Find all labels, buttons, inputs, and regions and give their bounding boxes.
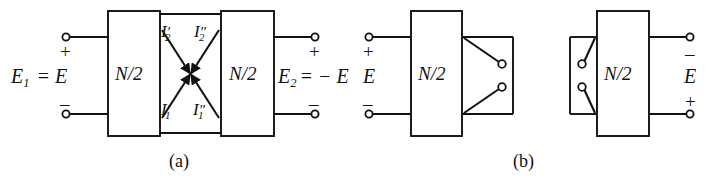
panel-b-left-bracket [462, 37, 513, 114]
panel-a-right-box-label-num: N [229, 63, 242, 84]
panel-a-current-I2-prime-sub: 2 [165, 31, 171, 43]
panel-a-left-wires [69, 37, 108, 114]
panel-a-right-box-label: N/2 [229, 64, 256, 83]
panel-b-left-box-label-div: /2 [431, 63, 446, 84]
panel-b-right-box-label-num: N [604, 63, 617, 84]
panel-a-right-voltage-label: E2= − E [278, 66, 349, 86]
panel-b-left-switch-contacts [498, 60, 506, 91]
caption-a: (a) [169, 152, 189, 170]
panel-b-left-box-label: N/2 [418, 64, 445, 83]
panel-a-left-minus-sign: – [60, 94, 70, 113]
panel-b-right-box-label-div: /2 [617, 63, 632, 84]
panel-b-right-bracket [570, 37, 597, 114]
panel-b-left-plus-sign: + [363, 42, 374, 61]
panel-a-right-box-label-div: /2 [242, 63, 257, 84]
panel-a-current-I1-prime: I′1 [161, 101, 170, 118]
panel-b-right-plus-sign: + [685, 92, 696, 111]
panel-b-right-minus-sign: – [685, 44, 695, 63]
panel-b-left-switches [464, 38, 499, 113]
panel-a-left-box-label-div: /2 [128, 63, 143, 84]
panel-b-left-wires [372, 37, 411, 114]
panel-a-current-I1-double-prime-sub: 1 [198, 109, 204, 121]
panel-a-right-voltage-rest: = − E [299, 65, 348, 87]
panel-b-right-switches [584, 38, 595, 113]
panel-b-terminals [365, 33, 693, 117]
panel-a-left-plus-sign: + [60, 42, 71, 61]
panel-a-left-voltage-subscript: 1 [23, 76, 29, 90]
panel-a-left-voltage-label: E1= E [11, 66, 67, 86]
panel-b-left-voltage-label: E [363, 66, 375, 86]
panel-a-current-I1-prime-sub: 1 [165, 109, 171, 121]
panel-a-current-I1-double-prime: I″1 [193, 101, 203, 118]
circuit-diagram-svg [0, 0, 708, 183]
panel-a-left-voltage-symbol: E [11, 65, 23, 87]
caption-b: (b) [513, 152, 534, 170]
panel-b-right-voltage-label: E [684, 66, 696, 86]
panel-b-right-switch-contacts [578, 60, 586, 91]
panel-a-left-voltage-rest: = E [36, 65, 67, 87]
panel-a-right-plus-sign: + [309, 42, 320, 61]
panel-b-left-minus-sign: – [363, 94, 373, 113]
panel-a-cross-conductors [162, 30, 219, 118]
panel-a-current-I2-double-prime: I″2 [194, 23, 204, 40]
panel-b-right-box-label: N/2 [604, 64, 631, 83]
panel-b-left-box-label-num: N [418, 63, 431, 84]
panel-a-left-box-label: N/2 [115, 64, 142, 83]
panel-a-current-I2-prime: I′2 [161, 23, 170, 40]
panel-a-right-voltage-symbol: E [278, 65, 290, 87]
panel-a-right-minus-sign: – [309, 94, 319, 113]
panel-a-left-box-label-num: N [115, 63, 128, 84]
panel-a-current-I2-double-prime-sub: 2 [199, 31, 205, 43]
panel-b-right-wires [649, 37, 687, 114]
panel-a-right-voltage-subscript: 2 [290, 76, 296, 90]
figure-container: + – E1= E N/2 I′2 I″2 I′1 I″1 N/2 + – E2… [0, 0, 708, 183]
